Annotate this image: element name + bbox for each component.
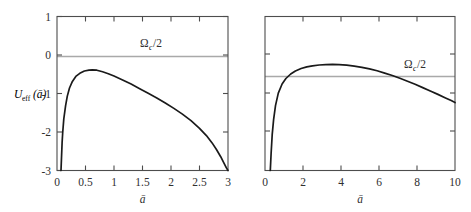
x-tick-label: 1: [111, 176, 117, 188]
y-tick-label: -3: [41, 165, 51, 177]
annotation-omega-symbol: Ω: [140, 37, 149, 49]
annotation-omega-symbol: Ω: [404, 58, 413, 70]
x-tick-label: 8: [414, 176, 420, 188]
right-panel-svg: 0 2 4 6 8 10 ā Ω c /2: [236, 0, 471, 212]
x-tick-label: 10: [449, 176, 461, 188]
figure-container: 1 0 -1 -2 -3 0 0.5 1 1.5 2 2.5 3 ā U ef…: [0, 0, 471, 212]
x-axis-label: ā: [140, 193, 146, 205]
annotation-omega-rest: /2: [417, 58, 426, 70]
annotation-omega-c-half: Ω c /2: [404, 58, 426, 73]
y-tick-label: 1: [45, 11, 51, 23]
x-tick-marks: [303, 17, 417, 171]
x-tick-label: 2.5: [192, 176, 207, 188]
y-tick-marks: [265, 54, 455, 131]
x-tick-label: 3: [225, 176, 231, 188]
y-tick-label: -2: [41, 126, 51, 138]
curve-u-eff: [61, 70, 228, 171]
right-panel: 0 2 4 6 8 10 ā Ω c /2: [236, 0, 471, 212]
x-tick-label: 2: [300, 176, 306, 188]
x-tick-label: 2: [168, 176, 174, 188]
x-axis-label: ā: [357, 193, 363, 205]
annotation-omega-c-half: Ω c /2: [140, 37, 162, 52]
y-axis-label-argument: (ā): [33, 88, 47, 101]
x-tick-label: 1.5: [135, 176, 150, 188]
y-axis-label-subscript: eff: [22, 94, 31, 103]
x-tick-label: 0: [262, 176, 268, 188]
y-tick-label: 0: [45, 49, 51, 61]
x-tick-label: 6: [376, 176, 382, 188]
y-axis-label: U eff (ā): [14, 88, 47, 103]
left-panel: 1 0 -1 -2 -3 0 0.5 1 1.5 2 2.5 3 ā U ef…: [0, 0, 236, 212]
x-tick-label: 0: [54, 176, 60, 188]
plot-frame: [265, 17, 455, 171]
x-tick-label: 4: [338, 176, 344, 188]
annotation-omega-rest: /2: [153, 37, 162, 49]
curve-u-eff: [270, 64, 455, 170]
x-tick-label: 0.5: [78, 176, 93, 188]
left-panel-svg: 1 0 -1 -2 -3 0 0.5 1 1.5 2 2.5 3 ā U ef…: [0, 0, 236, 212]
